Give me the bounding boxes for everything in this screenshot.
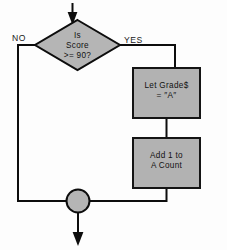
- connector-box2-to-merge: [90, 188, 167, 201]
- add-count-box-line2: A Count: [151, 161, 183, 170]
- merge-connector-shape: [67, 190, 90, 213]
- score-decision-line2: Score: [66, 41, 89, 50]
- let-grade-box-line1: Let Grade$: [145, 81, 189, 90]
- flowchart-canvas: Is Score >= 90? NO YES Let Grade$ = ″A″ …: [0, 0, 227, 250]
- score-decision-line3: >= 90?: [64, 51, 91, 60]
- let-grade-box-line2: = ″A″: [157, 91, 177, 100]
- add-count-box-line1: Add 1 to: [150, 151, 183, 160]
- branch-label-yes: YES: [124, 35, 143, 45]
- branch-label-no: NO: [12, 33, 26, 43]
- arrow-down-icon-exit: [73, 232, 84, 246]
- flowchart-diagram: Is Score >= 90? NO YES Let Grade$ = ″A″ …: [0, 0, 227, 250]
- connector-no-path: [18, 45, 66, 201]
- score-decision-line1: Is: [74, 31, 81, 40]
- connector-yes-path: [120, 45, 175, 68]
